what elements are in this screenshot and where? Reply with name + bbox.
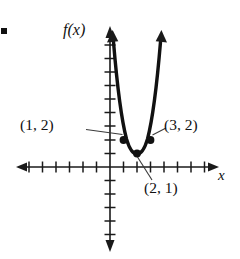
leader-line-1-2 <box>86 130 123 135</box>
parabola-curve <box>107 30 167 154</box>
data-point-1-2 <box>120 136 128 144</box>
data-point-3-2 <box>147 136 155 144</box>
point-label-1-2: (1, 2) <box>20 117 54 133</box>
y-axis-label: f(x) <box>63 22 85 38</box>
x-axis-label: x <box>218 168 225 183</box>
x-axis-left-arrow-icon <box>16 163 27 172</box>
parabola-figure: f(x) x (1, 2) (3, 2) (2, 1) <box>0 0 240 259</box>
point-label-2-1: (2, 1) <box>144 180 178 196</box>
y-axis-down-arrow-icon <box>106 240 115 252</box>
curve-right-arrow-icon <box>156 30 167 43</box>
point-label-3-2: (3, 2) <box>164 117 198 133</box>
bullet-marker-icon <box>1 28 7 34</box>
data-point-2-1 <box>133 150 141 158</box>
x-axis <box>16 162 219 173</box>
